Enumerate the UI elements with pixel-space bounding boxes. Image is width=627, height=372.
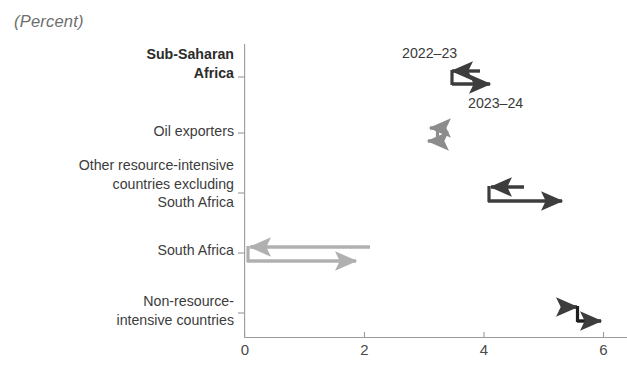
plot-svg	[0, 0, 627, 372]
arrow-pair-other-resource-intensive	[488, 186, 562, 202]
x-axis-ticks	[245, 332, 604, 338]
arrow-pair-oil-exporters	[428, 127, 438, 142]
arrow-pair-south-africa	[247, 246, 370, 262]
arrow-pair-non-resource-intensive	[570, 306, 601, 322]
chart-figure: (Percent) Sub-Saharan Africa Oil exporte…	[0, 0, 627, 372]
arrow-pair-sub-saharan-africa	[452, 70, 490, 85]
y-axis-ticks	[238, 77, 245, 313]
